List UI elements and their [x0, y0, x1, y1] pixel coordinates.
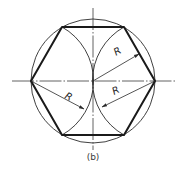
hexagon-construction-diagram: R R R (b): [0, 0, 185, 178]
figure-caption: (b): [87, 152, 100, 162]
radius-label-upper-right: R: [112, 45, 124, 58]
radius-line-upper-right: [93, 54, 139, 81]
radius-label-lower-right: R: [110, 84, 121, 97]
radius-label-lower-left: R: [63, 90, 74, 103]
